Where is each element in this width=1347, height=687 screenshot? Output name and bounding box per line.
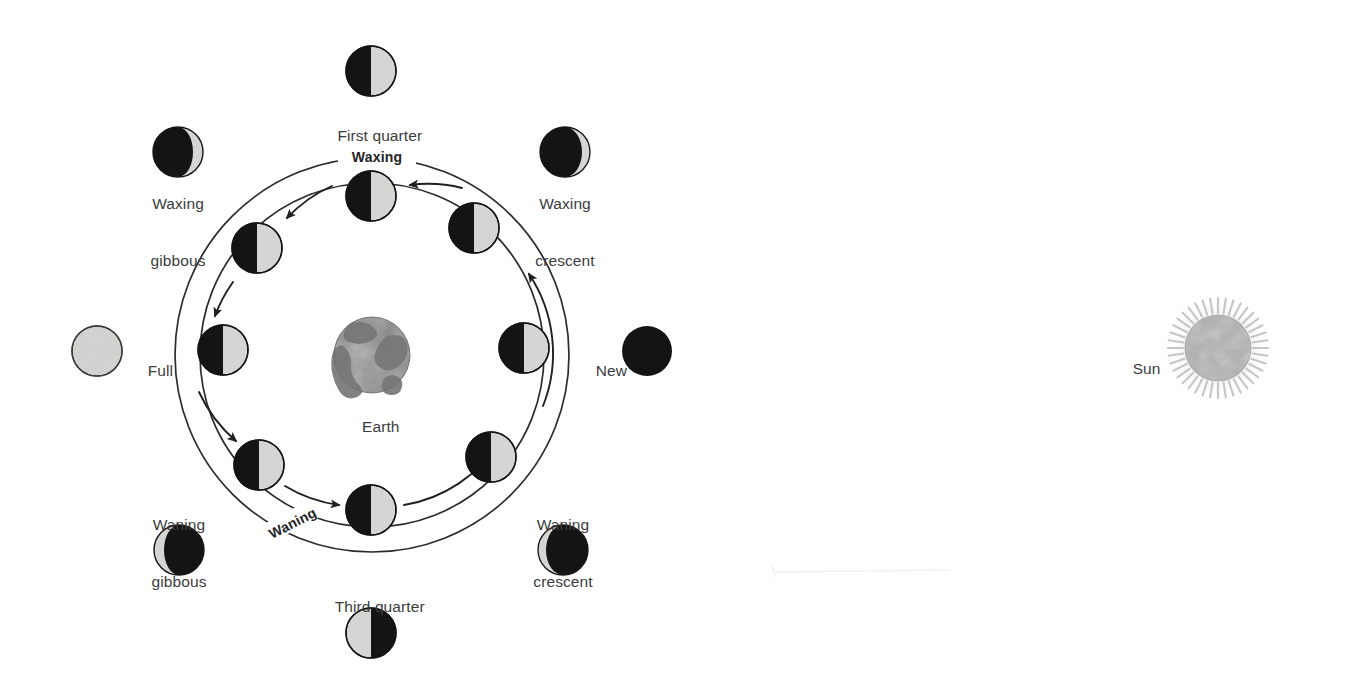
label-waning-gibbous-line1: Waning [152,515,207,534]
label-waxing-gibbous-line1: Waxing [151,194,206,213]
arrow-waxing-gibbous-to-full [215,282,233,316]
sun-body [1164,294,1272,402]
label-full-text: Full [148,362,173,379]
earth-body [331,317,410,398]
label-new-text: New [596,362,627,379]
orbit-moon-waning-crescent [466,432,516,482]
orbit-moon-new [499,323,549,373]
label-waxing-gibbous-line2: gibbous [151,251,206,270]
label-third-quarter: Third quarter [317,578,424,635]
moon-phases-diagram: Waxing Waning [0,0,1347,687]
label-waxing-gibbous: Waxing gibbous [151,156,206,308]
orbit-moon-third-quarter [346,485,396,535]
orbit-moon-waxing-gibbous [232,223,282,273]
arrow-waxing-crescent-to-first [410,184,462,188]
label-first-quarter: First quarter [320,107,423,164]
label-full: Full [130,342,173,399]
orbit-moon-waxing-crescent [449,203,499,253]
label-waxing-crescent: Waxing crescent [535,156,594,308]
label-waning-gibbous-line2: gibbous [152,572,207,591]
label-waning-crescent-line1: Waning [533,515,592,534]
orbit-moon-waning-gibbous [234,440,284,490]
label-waning-crescent-line2: crescent [533,572,592,591]
label-third-quarter-text: Third quarter [335,598,425,615]
label-sun-text: Sun [1133,360,1161,377]
orbit-moon-first-quarter [346,171,396,221]
label-sun: Sun [1115,340,1161,397]
label-waning-gibbous: Waning gibbous [152,477,207,629]
phase-moon-new [622,326,672,376]
phase-moon-first-quarter [346,46,396,96]
scan-artifact [772,566,950,578]
label-earth: Earth [344,398,399,455]
label-new: New [578,342,627,399]
orbit-moon-full [198,325,248,375]
phase-moon-full [72,326,122,376]
label-waning-crescent: Waning crescent [533,477,592,629]
label-waxing-crescent-line2: crescent [535,251,594,270]
label-earth-text: Earth [362,418,400,435]
arrow-full-to-waning-gibbous [199,392,236,441]
label-waxing-crescent-line1: Waxing [535,194,594,213]
label-first-quarter-text: First quarter [337,127,422,144]
